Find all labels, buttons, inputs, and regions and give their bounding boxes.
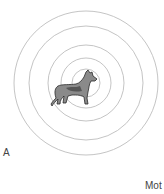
panel-label: A: [3, 147, 10, 158]
cropped-caption-text: Mot: [145, 180, 162, 191]
concentric-rings-diagram: [0, 0, 164, 194]
